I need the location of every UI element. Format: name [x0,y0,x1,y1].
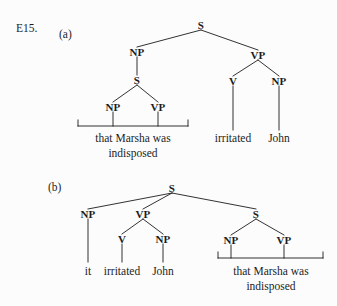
tree-b-word-it: it [85,266,91,278]
tree-b-node-verb-v: V [118,234,126,245]
tree-b-word-clause-line1: that Marsha was [233,266,308,278]
tree-b-sub-label: (b) [48,182,61,194]
tree-a-node-embedded-np: NP [105,102,120,113]
tree-a-word-clause-line2: indisposed [108,148,157,160]
tree-b-node-extraposed-np: NP [223,235,238,246]
tree-b-branch-0 [88,193,172,209]
tree-b-node-predicate-vp: VP [135,209,150,220]
tree-a-word-john: John [268,133,290,145]
tree-b-word-irritated: irritated [104,266,140,278]
tree-b-node-root-s: S [169,183,175,194]
tree-b-node-extraposed-vp: VP [276,235,291,246]
tree-b-node-subject-np: NP [80,209,95,220]
tree-a-node-embedded-s: S [134,75,140,86]
syntax-tree-figure: E15. (a)SNPSNPVPVPVNPthat Marsha wasindi… [0,0,337,306]
tree-b-word-john: John [152,266,174,278]
tree-b-word-clause-line2: indisposed [246,281,295,293]
tree-a-word-irritated: irritated [215,133,251,145]
tree-a-node-root-s: S [198,20,204,31]
tree-a-branch-4 [137,85,158,102]
tree-b-branch-2 [172,193,256,209]
exercise-label: E15. [16,23,37,35]
tree-a-node-verb-v: V [229,76,237,87]
tree-a-branch-3 [113,85,137,102]
tree-a-node-object-np: NP [271,76,286,87]
tree-a-node-subject-np: NP [129,47,144,58]
tree-a-node-embedded-vp: VP [150,102,165,113]
tree-a-branch-0 [137,30,201,47]
tree-a-sub-label: (a) [59,29,72,41]
tree-b-node-extraposed-s: S [253,209,259,220]
tree-b-node-object-np: NP [155,234,170,245]
tree-a-node-predicate-vp: VP [250,50,265,61]
tree-branch-lines [0,0,337,306]
tree-a-word-clause-line1: that Marsha was [95,133,170,145]
tree-a-branch-1 [201,30,258,50]
